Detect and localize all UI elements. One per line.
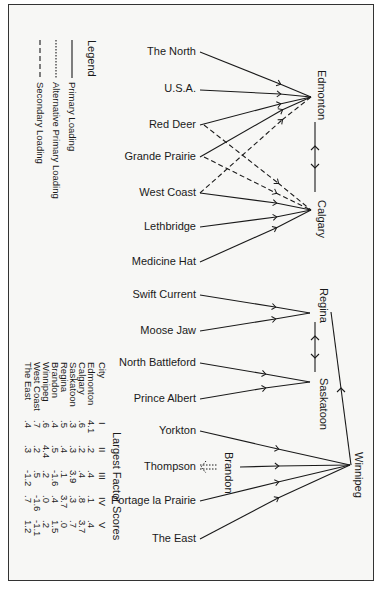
- svg-text:City: City: [97, 362, 108, 379]
- svg-text:IV: IV: [97, 497, 108, 507]
- legend: Legend Primary Loading Alternative Prima…: [35, 40, 98, 199]
- source-the-east: The East: [152, 532, 196, 544]
- svg-text:II: II: [97, 447, 108, 452]
- hub-brandon: Brandon: [223, 452, 235, 494]
- table-title: Largest Factor Scores: [111, 432, 123, 541]
- source-lethbridge: Lethbridge: [144, 220, 196, 232]
- source-west-coast: West Coast: [139, 186, 196, 198]
- source-thompson: Thompson: [144, 460, 196, 472]
- hub-edmonton: Edmonton: [316, 70, 328, 120]
- source-moose-jaw: Moose Jaw: [140, 324, 196, 336]
- source-the-north: The North: [147, 45, 196, 57]
- svg-text:The East: The East: [23, 362, 34, 400]
- hub-saskatoon: Saskatoon: [318, 378, 330, 430]
- svg-text:Primary Loading: Primary Loading: [67, 82, 78, 151]
- svg-text:-1.2: -1.2: [23, 470, 34, 486]
- legend-title: Legend: [86, 40, 98, 77]
- source-north-battleford: North Battleford: [119, 356, 196, 368]
- source-medicine-hat: Medicine Hat: [132, 255, 196, 267]
- factor-loading-diagram: Legend Primary Loading Alternative Prima…: [0, 0, 385, 593]
- factor-scores-table: Largest Factor Scores City I II III IV V…: [23, 362, 123, 541]
- source-yorkton: Yorkton: [159, 424, 196, 436]
- svg-text:I: I: [97, 422, 108, 425]
- svg-text:.3: .3: [23, 445, 34, 453]
- hub-winnipeg: Winnipeg: [353, 452, 365, 498]
- svg-text:III: III: [97, 472, 108, 480]
- legend-item-alternative: Alternative Primary Loading: [51, 40, 62, 199]
- table-header: City I II III IV V: [97, 362, 108, 529]
- svg-text:Alternative Primary Loading: Alternative Primary Loading: [51, 82, 62, 199]
- svg-text:.4: .4: [23, 420, 34, 428]
- legend-item-secondary: Secondary Loading: [35, 40, 46, 164]
- source-portage-la-prairie: Portage la Prairie: [111, 494, 196, 506]
- hub-regina: Regina: [318, 288, 330, 324]
- source-swift-current: Swift Current: [132, 288, 196, 300]
- source-prince-albert: Prince Albert: [134, 392, 196, 404]
- legend-item-primary: Primary Loading: [67, 40, 78, 151]
- hub-calgary: Calgary: [316, 200, 328, 238]
- source-red-deer: Red Deer: [149, 118, 196, 130]
- source-usa: U.S.A.: [164, 82, 196, 94]
- source-grande-prairie: Grande Prairie: [124, 150, 196, 162]
- svg-text:1.2: 1.2: [23, 520, 34, 533]
- svg-text:.7: .7: [23, 495, 34, 503]
- hub-connectors: [311, 122, 351, 465]
- svg-text:V: V: [97, 522, 108, 529]
- thompson-alternative-arrow: [200, 461, 218, 473]
- hub-labels: Edmonton Calgary Regina Saskatoon Winnip…: [223, 70, 365, 498]
- svg-text:Secondary Loading: Secondary Loading: [35, 82, 46, 164]
